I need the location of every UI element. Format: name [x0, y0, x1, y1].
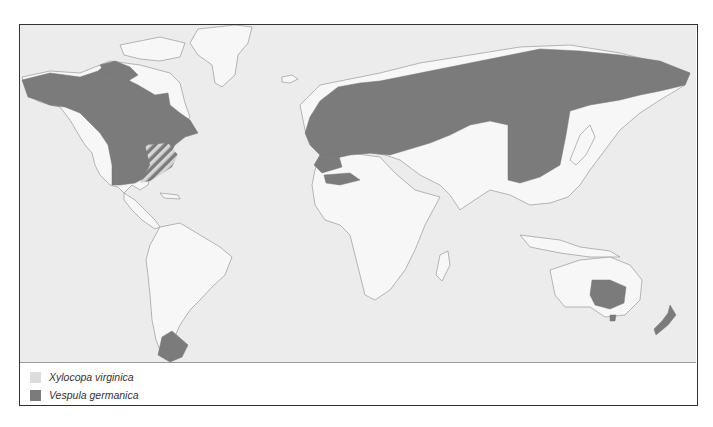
legend-label: Vespula germanica — [49, 389, 139, 401]
map-figure: Xylocopa virginica Vespula germanica — [19, 24, 698, 406]
legend-swatch-xylocopa — [30, 372, 41, 383]
range-vespula-new-zealand — [654, 305, 676, 335]
world-map — [20, 25, 696, 363]
arctic-islands — [120, 37, 185, 61]
madagascar — [436, 251, 450, 281]
world-map-svg — [20, 25, 696, 362]
central-america — [124, 193, 160, 229]
legend-item-vespula-germanica: Vespula germanica — [30, 388, 139, 402]
legend-swatch-vespula — [30, 390, 41, 401]
indonesia — [520, 235, 620, 257]
legend-label: Xylocopa virginica — [49, 371, 134, 383]
iceland — [282, 75, 298, 83]
range-vespula-tasmania — [610, 315, 616, 321]
greenland — [190, 25, 252, 87]
legend: Xylocopa virginica Vespula germanica — [20, 363, 696, 405]
caribbean — [160, 193, 180, 199]
legend-item-xylocopa-virginica: Xylocopa virginica — [30, 370, 134, 384]
south-america — [146, 223, 232, 357]
